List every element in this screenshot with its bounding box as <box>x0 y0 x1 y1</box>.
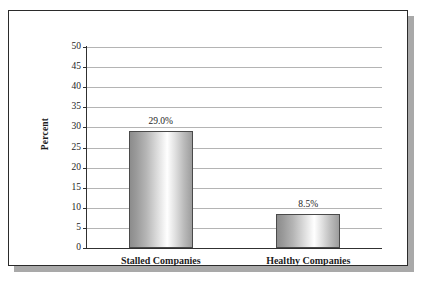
gridline <box>87 248 382 249</box>
y-axis-tick-mark <box>83 67 87 68</box>
bar-value-label: 29.0% <box>119 117 203 127</box>
y-axis-tick-label: 50 <box>72 42 82 52</box>
y-axis-tick-mark <box>83 127 87 128</box>
y-axis-tick-mark <box>83 47 87 48</box>
y-axis-tick-mark <box>83 107 87 108</box>
bar-value-label: 8.5% <box>266 200 350 210</box>
chart-screenshot: Percent 50454035302520151050 29.0%8.5% S… <box>0 0 421 283</box>
y-axis-tick-label: 0 <box>76 243 81 253</box>
gridline <box>87 107 382 108</box>
y-axis-tick-mark <box>83 248 87 249</box>
gridline <box>87 67 382 68</box>
y-axis-tick-mark <box>83 87 87 88</box>
y-axis-title: Percent <box>40 94 50 174</box>
bar[interactable] <box>129 131 193 248</box>
y-axis-tick-mark <box>83 228 87 229</box>
plot-area: 29.0%8.5% <box>87 47 382 248</box>
y-axis-tick-label: 10 <box>72 203 82 213</box>
y-axis-tick-label: 40 <box>72 82 82 92</box>
bar[interactable] <box>276 214 340 248</box>
y-axis-tick-mark <box>83 188 87 189</box>
y-axis-tick-label: 20 <box>72 163 82 173</box>
y-axis-tick-label: 45 <box>72 62 82 72</box>
x-axis-category-label: Healthy Companies <box>228 256 388 266</box>
y-axis-tick-mark <box>83 208 87 209</box>
y-axis-tick-label: 25 <box>72 143 82 153</box>
y-axis-tick-label: 5 <box>76 223 81 233</box>
figure-frame: Percent 50454035302520151050 29.0%8.5% S… <box>8 10 408 266</box>
x-axis-category-label: Stalled Companies <box>81 256 241 266</box>
y-axis-tick-mark <box>83 168 87 169</box>
gridline <box>87 47 382 48</box>
y-axis-tick-label: 30 <box>72 122 82 132</box>
y-axis-tick-label: 15 <box>72 183 82 193</box>
y-axis-tick-label: 35 <box>72 102 82 112</box>
y-axis-tick-mark <box>83 148 87 149</box>
gridline <box>87 127 382 128</box>
y-axis-tick-labels: 50454035302520151050 <box>61 11 81 267</box>
gridline <box>87 87 382 88</box>
